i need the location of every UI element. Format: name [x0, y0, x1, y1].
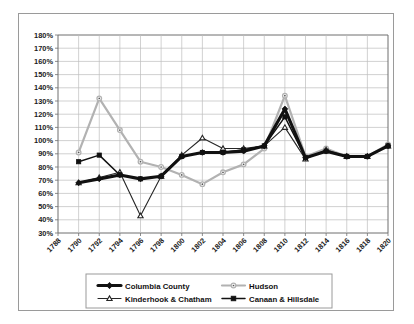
y-tick-label: 160%	[34, 57, 53, 66]
grid-lines	[58, 35, 388, 236]
x-tick-label: 1812	[292, 236, 310, 254]
y-tick-label: 170%	[34, 44, 53, 53]
x-tick-label: 1816	[334, 236, 352, 254]
series-hudson	[76, 93, 390, 186]
chart-legend: Columbia CountyHudsonKinderhook & Chatha…	[86, 274, 332, 308]
y-tick-label: 90%	[38, 149, 53, 158]
x-tick-label: 1818	[354, 236, 372, 254]
x-tick-label: 1794	[107, 235, 126, 254]
x-tick-label: 1806	[231, 236, 249, 254]
legend-label: Hudson	[249, 282, 278, 291]
data-series-layer	[76, 93, 391, 217]
x-tick-label: 1802	[189, 236, 207, 254]
x-axis-tick-labels: 1788179017921794179617981800180218041806…	[45, 235, 393, 254]
y-tick-label: 30%	[38, 229, 53, 238]
x-tick-label: 1804	[210, 235, 229, 254]
x-tick-label: 1798	[148, 236, 166, 254]
y-tick-label: 40%	[38, 215, 53, 224]
y-tick-label: 80%	[38, 163, 53, 172]
y-axis-tick-labels: 30%40%50%60%70%80%90%100%110%120%130%140…	[34, 31, 58, 238]
x-tick-label: 1814	[313, 235, 332, 254]
y-tick-label: 140%	[34, 83, 53, 92]
line-chart: 30%40%50%60%70%80%90%100%110%120%130%140…	[0, 0, 414, 324]
series-kinderhook-chatham	[76, 125, 391, 218]
x-tick-label: 1810	[272, 236, 290, 254]
x-tick-label: 1792	[86, 236, 104, 254]
x-tick-label: 1808	[251, 236, 269, 254]
y-tick-label: 50%	[38, 202, 53, 211]
legend-label: Canaan & Hillsdale	[249, 295, 320, 304]
y-tick-label: 120%	[34, 110, 53, 119]
x-tick-label: 1820	[375, 236, 393, 254]
x-tick-label: 1800	[169, 236, 187, 254]
x-tick-label: 1796	[127, 236, 145, 254]
y-tick-label: 70%	[38, 176, 53, 185]
legend-label: Kinderhook & Chatham	[125, 295, 212, 304]
y-tick-label: 180%	[34, 31, 53, 40]
y-tick-label: 100%	[34, 136, 53, 145]
y-tick-label: 60%	[38, 189, 53, 198]
y-tick-label: 110%	[35, 123, 54, 132]
y-tick-label: 130%	[34, 97, 53, 106]
series-canaan-hillsdale	[77, 115, 391, 181]
y-tick-label: 150%	[34, 70, 53, 79]
series-columbia-county	[76, 106, 391, 186]
x-tick-label: 1788	[45, 236, 63, 254]
x-tick-label: 1790	[66, 236, 84, 254]
legend-label: Columbia County	[125, 282, 190, 291]
